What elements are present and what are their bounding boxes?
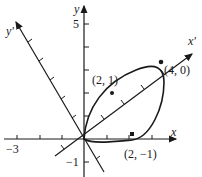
rotated-axes-ellipse-diagram: y x x' y' 5 −3 −1 (2, 1) (4, 0) (2, −1) (0, 0, 202, 177)
y-prime-axis-label: y' (5, 24, 14, 38)
point-label-4-0: (4, 0) (164, 63, 190, 77)
point-2-1 (110, 91, 114, 95)
tick-label-y-neg1: −1 (66, 155, 79, 169)
y-prime-axis (16, 22, 104, 172)
point-label-2-neg1: (2, −1) (124, 147, 157, 161)
y-axis-label: y (73, 2, 80, 16)
point-4-0 (159, 60, 164, 65)
x-axis-label: x (170, 125, 177, 139)
x-prime-axis-label: x' (187, 34, 196, 48)
point-2-neg1 (130, 132, 134, 136)
tick-label-y-5: 5 (73, 17, 79, 31)
point-label-2-1: (2, 1) (92, 73, 118, 87)
tick-label-x-neg3: −3 (6, 142, 19, 156)
